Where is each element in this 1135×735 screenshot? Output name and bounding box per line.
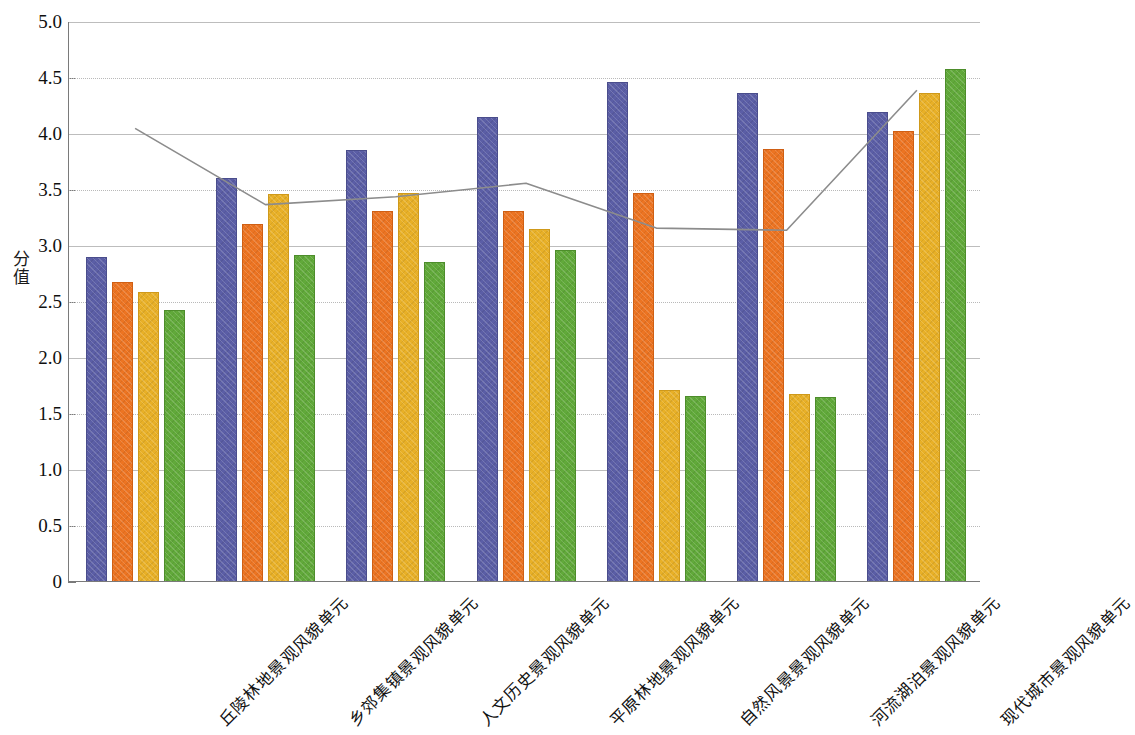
y-axis-tick-label: 0 [14, 571, 62, 593]
x-axis-tick-label: 丘陵林地景观风貌单元 [212, 590, 353, 731]
bar-hatch-pattern [816, 398, 835, 581]
bar [424, 262, 445, 582]
y-axis-tick-label: 0.5 [14, 515, 62, 537]
y-axis-tick-label: 2.0 [14, 347, 62, 369]
gridline [68, 414, 980, 415]
y-axis-tick-label: 4.5 [14, 67, 62, 89]
gridline [68, 526, 980, 527]
bar [685, 396, 706, 582]
bar [529, 229, 550, 582]
gridline [68, 22, 980, 23]
gridline [68, 134, 980, 135]
bar [893, 131, 914, 582]
bar-hatch-pattern [764, 150, 783, 581]
bar-hatch-pattern [478, 118, 497, 581]
bar-hatch-pattern [269, 195, 288, 581]
bar [633, 193, 654, 582]
trend-line [135, 90, 917, 230]
gridline [68, 246, 980, 247]
y-axis-tick-layer: 5.04.54.03.53.02.52.01.51.00.50 [8, 22, 62, 582]
bar-hatch-pattern [295, 256, 314, 581]
bar [216, 178, 237, 582]
gridline [68, 190, 980, 191]
bar-hatch-pattern [608, 83, 627, 581]
bar-hatch-pattern [87, 258, 106, 581]
bar [789, 394, 810, 582]
bar [659, 390, 680, 582]
bar [242, 224, 263, 582]
bar [503, 211, 524, 582]
bar [867, 112, 888, 582]
y-axis-tick-label: 3.0 [14, 235, 62, 257]
bar [112, 282, 133, 582]
x-axis-label-layer: 丘陵林地景观风貌单元乡郊集镇景观风貌单元人文历史景观风貌单元平原林地景观风貌单元… [68, 582, 980, 735]
x-axis-tick-label: 人文历史景观风貌单元 [473, 590, 614, 731]
x-axis-tick-label: 现代城市景观风貌单元 [994, 590, 1135, 731]
bar [945, 69, 966, 582]
bar [607, 82, 628, 582]
bar-hatch-pattern [425, 263, 444, 581]
bar [86, 257, 107, 582]
y-axis-tick-label: 1.5 [14, 403, 62, 425]
bar-hatch-pattern [660, 391, 679, 581]
y-axis-tick-label: 2.5 [14, 291, 62, 313]
x-axis-tick-label: 乡郊集镇景观风貌单元 [343, 590, 484, 731]
bar-hatch-pattern [165, 311, 184, 581]
bar [815, 397, 836, 582]
gridline [68, 78, 980, 79]
gridline [68, 302, 980, 303]
bar [294, 255, 315, 582]
bar-hatch-pattern [347, 151, 366, 581]
y-axis-tick-label: 4.0 [14, 123, 62, 145]
bar-hatch-pattern [217, 179, 236, 581]
x-axis-tick-label: 自然风景景观风貌单元 [734, 590, 875, 731]
bar [346, 150, 367, 582]
bar [919, 93, 940, 582]
plot-area [68, 22, 980, 582]
bar-hatch-pattern [920, 94, 939, 581]
bar-hatch-pattern [373, 212, 392, 581]
y-axis-tick-label: 5.0 [14, 11, 62, 33]
bar [164, 310, 185, 582]
bar-hatch-pattern [399, 194, 418, 581]
bar-hatch-pattern [634, 194, 653, 581]
bar [398, 193, 419, 582]
gridline [68, 470, 980, 471]
bar-hatch-pattern [868, 113, 887, 581]
y-axis-tick-label: 3.5 [14, 179, 62, 201]
bar-hatch-pattern [139, 293, 158, 581]
bar [555, 250, 576, 582]
bar-hatch-pattern [738, 94, 757, 581]
bar-hatch-pattern [113, 283, 132, 581]
bar-hatch-pattern [556, 251, 575, 581]
gridline [68, 358, 980, 359]
x-axis-tick-label: 河流湖泊景观风貌单元 [864, 590, 1005, 731]
bar-hatch-pattern [530, 230, 549, 581]
bar [477, 117, 498, 582]
y-axis-line [68, 22, 69, 582]
bar-hatch-pattern [894, 132, 913, 581]
bar-hatch-pattern [504, 212, 523, 581]
bar-hatch-pattern [946, 70, 965, 581]
bar [763, 149, 784, 582]
bar [268, 194, 289, 582]
bar [138, 292, 159, 582]
bar [737, 93, 758, 582]
bar-hatch-pattern [686, 397, 705, 581]
x-axis-tick-label: 平原林地景观风貌单元 [603, 590, 744, 731]
bar [372, 211, 393, 582]
y-axis-tick-label: 1.0 [14, 459, 62, 481]
bar-hatch-pattern [790, 395, 809, 581]
bar-hatch-pattern [243, 225, 262, 581]
